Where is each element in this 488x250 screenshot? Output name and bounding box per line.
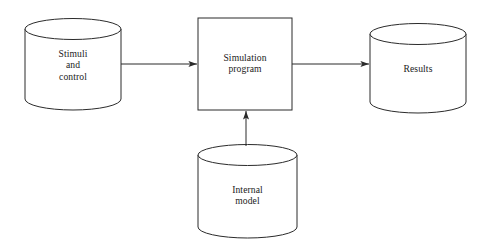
cylinder-body — [198, 155, 297, 238]
cylinder-internal-model[interactable] — [198, 145, 297, 239]
cylinder-results[interactable] — [370, 24, 466, 114]
diagram-canvas: Stimuli and control Simulation program R… — [0, 0, 488, 250]
rectangle-simulation-program[interactable] — [198, 18, 292, 110]
diagram-graphics — [0, 0, 488, 250]
cylinder-top-ellipse — [370, 24, 466, 45]
cylinder-top-ellipse — [198, 145, 297, 166]
cylinder-stimuli-and-control[interactable] — [25, 19, 121, 111]
cylinder-body — [370, 34, 466, 113]
cylinder-body — [25, 29, 121, 110]
cylinder-top-ellipse — [25, 19, 121, 40]
rectangle-body — [198, 18, 292, 110]
